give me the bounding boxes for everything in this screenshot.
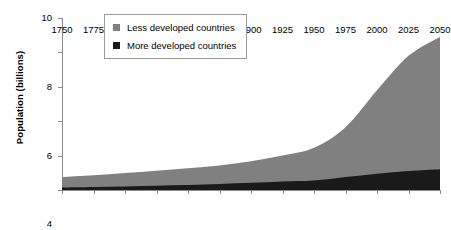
x-tick [125, 190, 126, 194]
y-tick-label: 6 [47, 151, 52, 161]
x-tick-label: 1975 [335, 25, 356, 35]
legend-item-less-developed: Less developed countries [113, 20, 236, 35]
y-tick-label: 8 [47, 82, 52, 92]
y-tick: 8 [58, 52, 62, 53]
x-tick [346, 190, 347, 194]
x-tick [314, 190, 315, 194]
x-tick [62, 190, 63, 194]
x-tick [251, 190, 252, 194]
x-tick-label: 1925 [272, 25, 293, 35]
y-tick: 10 [58, 18, 62, 19]
x-tick [94, 190, 95, 194]
y-axis-title: Population (billions) [14, 23, 25, 173]
legend-label: Less developed countries [127, 23, 235, 33]
population-area-chart: Population (billions) 0246810 1750177518… [0, 0, 451, 230]
x-tick [157, 190, 158, 194]
x-tick-label: 2000 [366, 25, 387, 35]
x-tick [220, 190, 221, 194]
x-tick-label: 1950 [303, 25, 324, 35]
y-tick-label: 4 [47, 220, 52, 230]
x-tick [409, 190, 410, 194]
x-tick-label: 2050 [429, 25, 450, 35]
x-tick [283, 190, 284, 194]
x-tick-label: 2025 [398, 25, 419, 35]
legend-swatch-icon [113, 24, 120, 31]
less-developed-area [62, 37, 440, 190]
y-tick-label: 10 [41, 13, 52, 23]
x-tick [377, 190, 378, 194]
y-tick: 2 [58, 156, 62, 157]
legend-item-more-developed: More developed countries [113, 38, 236, 53]
x-tick-label: 1750 [51, 25, 72, 35]
legend-label: More developed countries [127, 41, 236, 51]
x-tick [440, 190, 441, 194]
x-tick [188, 190, 189, 194]
x-tick-label: 1775 [83, 25, 104, 35]
legend: Less developed countries More developed … [104, 14, 247, 59]
y-tick: 4 [58, 121, 62, 122]
legend-swatch-icon [113, 42, 120, 49]
y-tick: 6 [58, 87, 62, 88]
